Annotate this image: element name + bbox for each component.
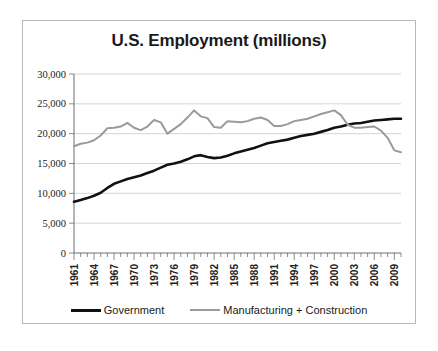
- x-axis-tick-label: 2000: [329, 264, 340, 287]
- chart-plot-area: 30,00025,00020,00015,00010,0005,00001961…: [23, 21, 415, 323]
- y-axis-tick-label: 30,000: [37, 69, 66, 80]
- x-axis-tick-label: 2003: [349, 264, 360, 287]
- y-axis-tick-label: 0: [61, 248, 66, 259]
- x-axis-tick-label: 1970: [129, 264, 140, 287]
- y-axis-tick-label: 15,000: [37, 158, 66, 169]
- series-line-manufacturing-construction: [74, 110, 401, 152]
- legend-label-government: Government: [104, 304, 165, 316]
- y-axis-tick-label: 25,000: [37, 98, 66, 109]
- x-axis-tick-label: 1994: [289, 264, 300, 287]
- x-axis-tick-label: 1991: [269, 264, 280, 287]
- legend-swatch-government: [71, 309, 101, 312]
- x-axis-tick-label: 1988: [249, 264, 260, 287]
- x-axis-tick-label: 1973: [149, 264, 160, 287]
- x-axis-tick-label: 2009: [389, 264, 400, 287]
- y-axis-tick-label: 5,000: [42, 218, 66, 229]
- legend-item-government: Government: [71, 304, 165, 316]
- legend-label-manufacturing-construction: Manufacturing + Construction: [223, 304, 367, 316]
- x-axis-tick-label: 2006: [369, 264, 380, 287]
- y-axis-tick-label: 20,000: [37, 128, 66, 139]
- x-axis-tick-label: 1961: [69, 264, 80, 287]
- y-axis-tick-label: 10,000: [37, 188, 66, 199]
- x-axis-tick-label: 1997: [309, 264, 320, 287]
- x-axis-tick-label: 1985: [229, 264, 240, 287]
- legend-swatch-manufacturing-construction: [190, 309, 220, 311]
- x-axis-tick-label: 1967: [109, 264, 120, 287]
- x-axis-tick-label: 1964: [89, 264, 100, 287]
- chart-container: U.S. Employment (millions) 30,00025,0002…: [22, 20, 416, 324]
- series-line-government: [74, 119, 401, 202]
- x-axis-tick-label: 1979: [189, 264, 200, 287]
- x-axis-tick-label: 1976: [169, 264, 180, 287]
- x-axis-tick-label: 1982: [209, 264, 220, 287]
- legend-item-manufacturing-construction: Manufacturing + Construction: [190, 304, 367, 316]
- chart-legend: Government Manufacturing + Construction: [23, 304, 415, 316]
